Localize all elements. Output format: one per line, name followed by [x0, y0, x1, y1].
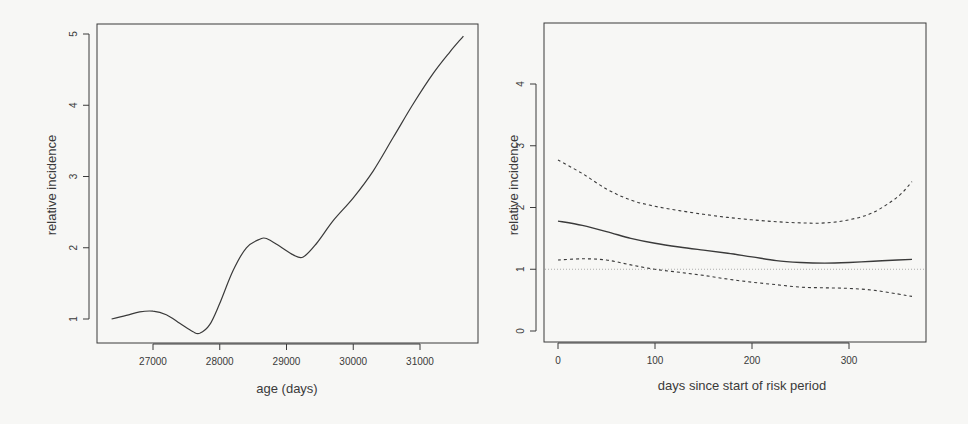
x-tick-label: 200	[744, 355, 761, 366]
left-y-axis: 12345	[68, 31, 89, 322]
y-tick-label: 1	[515, 266, 526, 272]
right-x-axis-label: days since start of risk period	[658, 378, 826, 393]
y-tick-label: 4	[68, 102, 79, 108]
left-x-axis: 2700028000290003000031000	[139, 344, 434, 367]
y-tick-label: 3	[68, 173, 79, 179]
left-y-axis-label: relative incidence	[44, 135, 59, 235]
y-tick-label: 4	[515, 81, 526, 87]
estimate-curve	[558, 221, 912, 263]
lower-ci-curve	[558, 259, 912, 297]
y-tick-label: 2	[68, 245, 79, 251]
x-tick-label: 28000	[206, 356, 234, 367]
figure: 12345 2700028000290003000031000 relative…	[0, 0, 968, 424]
y-tick-label: 0	[515, 328, 526, 334]
left-age-effect-curve	[112, 36, 464, 334]
left-plot-frame	[97, 24, 478, 343]
x-tick-label: 0	[555, 355, 561, 366]
right-y-axis-label: relative incidence	[506, 135, 521, 235]
left-x-axis-label: age (days)	[256, 381, 317, 396]
y-tick-label: 5	[68, 31, 79, 37]
x-tick-label: 100	[647, 355, 664, 366]
x-tick-label: 300	[841, 355, 858, 366]
y-tick-label: 1	[68, 316, 79, 322]
x-tick-label: 30000	[339, 356, 367, 367]
x-tick-label: 27000	[139, 356, 167, 367]
left-panel: 12345 2700028000290003000031000 relative…	[44, 24, 478, 396]
x-tick-label: 29000	[273, 356, 301, 367]
right-plot-frame	[544, 23, 926, 342]
right-panel: 01234 0100200300 relative incidence days…	[506, 23, 926, 393]
x-tick-label: 31000	[406, 356, 434, 367]
right-x-axis: 0100200300	[555, 343, 858, 366]
upper-ci-curve	[558, 160, 912, 223]
